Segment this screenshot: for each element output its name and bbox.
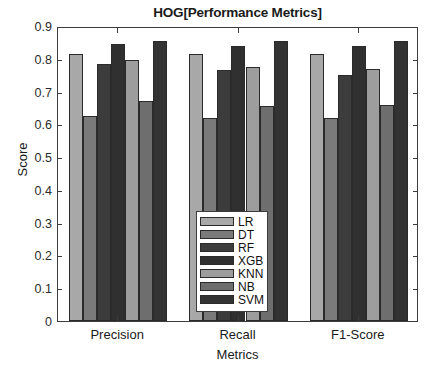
y-tick-mark (413, 158, 418, 159)
chart-legend: LRDTRFXGBKNNNBSVM (196, 211, 268, 312)
y-tick-mark (413, 125, 418, 126)
legend-item: LR (200, 215, 264, 228)
bar (111, 44, 125, 321)
legend-swatch (200, 230, 234, 240)
legend-swatch (200, 243, 234, 253)
y-tick-label: 0.3 (6, 218, 52, 230)
y-tick-mark (57, 191, 62, 192)
legend-label: NB (238, 281, 255, 293)
y-tick-label: 0.2 (6, 250, 52, 262)
y-axis-title: Score (15, 115, 30, 205)
bar (324, 118, 338, 321)
legend-swatch (200, 295, 234, 305)
legend-swatch (200, 269, 234, 279)
x-group-label: F1-Score (303, 327, 413, 342)
y-tick-mark (57, 60, 62, 61)
y-tick-label: 0.8 (6, 54, 52, 66)
legend-item: KNN (200, 267, 264, 280)
legend-swatch (200, 256, 234, 266)
bar (310, 54, 324, 321)
x-tick-mark (117, 316, 118, 322)
y-tick-mark (413, 60, 418, 61)
y-tick-mark (413, 224, 418, 225)
y-tick-label: 0.1 (6, 283, 52, 295)
legend-item: XGB (200, 254, 264, 267)
y-tick-mark (57, 125, 62, 126)
x-tick-mark (117, 27, 118, 33)
bar (352, 46, 366, 321)
legend-item: SVM (200, 293, 264, 306)
bar (366, 69, 380, 321)
bar (69, 54, 83, 321)
y-tick-mark (57, 158, 62, 159)
legend-label: SVM (238, 294, 264, 306)
legend-label: XGB (238, 255, 263, 267)
legend-label: KNN (238, 268, 263, 280)
bar (83, 116, 97, 321)
x-group-label: Recall (183, 327, 293, 342)
bar (153, 41, 167, 321)
legend-label: RF (238, 242, 254, 254)
y-tick-mark (413, 93, 418, 94)
y-tick-mark (413, 256, 418, 257)
legend-item: RF (200, 241, 264, 254)
x-tick-mark (238, 316, 239, 322)
y-tick-label: 0.7 (6, 87, 52, 99)
legend-item: DT (200, 228, 264, 241)
legend-label: LR (238, 216, 253, 228)
y-tick-label: 0 (6, 316, 52, 328)
legend-swatch (200, 217, 234, 227)
x-tick-mark (358, 316, 359, 322)
y-tick-label: 0.9 (6, 21, 52, 33)
bar (274, 41, 288, 321)
legend-item: NB (200, 280, 264, 293)
legend-swatch (200, 282, 234, 292)
y-tick-mark (413, 191, 418, 192)
bar (139, 101, 153, 321)
y-tick-mark (57, 256, 62, 257)
chart-figure: HOG[Performance Metrics] 00.10.20.30.40.… (0, 0, 431, 369)
bar (125, 60, 139, 321)
chart-title: HOG[Performance Metrics] (57, 5, 418, 20)
x-axis-title: Metrics (57, 347, 418, 362)
y-tick-mark (57, 224, 62, 225)
x-tick-mark (238, 27, 239, 33)
y-tick-mark (57, 93, 62, 94)
y-tick-mark (57, 289, 62, 290)
bar (394, 41, 408, 321)
bar (97, 64, 111, 321)
y-tick-mark (413, 289, 418, 290)
x-tick-mark (358, 27, 359, 33)
bar (380, 105, 394, 321)
bar (338, 75, 352, 321)
legend-label: DT (238, 229, 254, 241)
x-group-label: Precision (62, 327, 172, 342)
